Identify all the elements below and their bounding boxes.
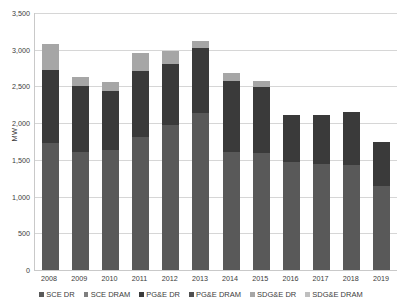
y-axis-tick-label: 0 bbox=[0, 266, 30, 275]
bar-segment[interactable] bbox=[132, 137, 149, 270]
bar-segment[interactable] bbox=[132, 71, 149, 137]
bar-group[interactable] bbox=[42, 13, 59, 270]
x-axis-tick-label: 2018 bbox=[337, 274, 365, 283]
stacked-bar-chart: MW 3,5003,0002,5002,0001,5001,0005000 20… bbox=[0, 0, 402, 307]
bar-segment[interactable] bbox=[373, 142, 390, 186]
bar-segment[interactable] bbox=[162, 64, 179, 124]
bar-group[interactable] bbox=[223, 13, 240, 270]
y-axis-tick-label: 1,000 bbox=[0, 193, 30, 202]
legend-label: SCE DRAM bbox=[91, 290, 131, 299]
bar-segment[interactable] bbox=[102, 150, 119, 270]
legend-swatch-icon bbox=[189, 292, 194, 297]
y-axis-tick-label: 2,000 bbox=[0, 119, 30, 128]
bar-segment[interactable] bbox=[223, 152, 240, 270]
y-axis-tick-label: 2,500 bbox=[0, 82, 30, 91]
chart-legend: SCE DRSCE DRAMPG&E DRPG&E DRAMSDG&E DRSD… bbox=[0, 290, 402, 299]
y-axis-tick-label: 3,000 bbox=[0, 46, 30, 55]
bar-group[interactable] bbox=[132, 13, 149, 270]
bar-segment[interactable] bbox=[343, 112, 360, 165]
legend-item[interactable]: SCE DRAM bbox=[84, 290, 131, 299]
bar-group[interactable] bbox=[373, 13, 390, 270]
legend-label: PG&E DR bbox=[146, 290, 180, 299]
bar-segment[interactable] bbox=[343, 165, 360, 270]
bar-group[interactable] bbox=[313, 13, 330, 270]
bar-segment[interactable] bbox=[313, 115, 330, 163]
legend-item[interactable]: SCE DR bbox=[39, 290, 74, 299]
legend-item[interactable]: SDG&E DRAM bbox=[305, 290, 362, 299]
bar-segment[interactable] bbox=[102, 82, 119, 91]
legend-item[interactable]: SDG&E DR bbox=[250, 290, 296, 299]
legend-label: SDG&E DR bbox=[257, 290, 296, 299]
bar-segment[interactable] bbox=[72, 86, 89, 152]
bar-segment[interactable] bbox=[162, 51, 179, 64]
bar-segment[interactable] bbox=[102, 91, 119, 150]
legend-swatch-icon bbox=[39, 292, 44, 297]
bar-segment[interactable] bbox=[283, 162, 300, 270]
bar-group[interactable] bbox=[162, 13, 179, 270]
legend-label: SDG&E DRAM bbox=[312, 290, 362, 299]
bar-segment[interactable] bbox=[192, 113, 209, 270]
bar-segment[interactable] bbox=[42, 143, 59, 270]
bar-segment[interactable] bbox=[253, 153, 270, 270]
bar-group[interactable] bbox=[192, 13, 209, 270]
x-axis-tick-label: 2009 bbox=[65, 274, 93, 283]
plot-area bbox=[34, 13, 397, 271]
bar-segment[interactable] bbox=[162, 125, 179, 270]
bar-segment[interactable] bbox=[253, 87, 270, 152]
bar-segment[interactable] bbox=[373, 186, 390, 270]
bar-segment[interactable] bbox=[192, 48, 209, 113]
x-axis-tick-label: 2016 bbox=[276, 274, 304, 283]
legend-swatch-icon bbox=[84, 292, 89, 297]
x-axis-tick-label: 2011 bbox=[126, 274, 154, 283]
bar-segment[interactable] bbox=[223, 73, 240, 80]
y-axis-tick-label: 500 bbox=[0, 229, 30, 238]
bar-group[interactable] bbox=[253, 13, 270, 270]
x-axis-tick-label: 2008 bbox=[35, 274, 63, 283]
bar-series-container bbox=[35, 13, 397, 270]
bar-segment[interactable] bbox=[72, 77, 89, 86]
legend-swatch-icon bbox=[250, 292, 255, 297]
x-axis-tick-label: 2013 bbox=[186, 274, 214, 283]
legend-item[interactable]: PG&E DRAM bbox=[189, 290, 241, 299]
legend-swatch-icon bbox=[305, 292, 310, 297]
x-axis-tick-label: 2010 bbox=[95, 274, 123, 283]
x-axis-tick-label: 2019 bbox=[367, 274, 395, 283]
legend-label: PG&E DRAM bbox=[196, 290, 241, 299]
bar-segment[interactable] bbox=[192, 41, 209, 48]
bar-segment[interactable] bbox=[253, 81, 270, 87]
bar-segment[interactable] bbox=[132, 53, 149, 71]
legend-label: SCE DR bbox=[46, 290, 74, 299]
bar-segment[interactable] bbox=[42, 70, 59, 143]
bar-group[interactable] bbox=[72, 13, 89, 270]
x-axis-tick-label: 2015 bbox=[246, 274, 274, 283]
bar-group[interactable] bbox=[102, 13, 119, 270]
bar-group[interactable] bbox=[343, 13, 360, 270]
x-axis-tick-label: 2017 bbox=[307, 274, 335, 283]
bar-segment[interactable] bbox=[283, 115, 300, 162]
bar-segment[interactable] bbox=[223, 81, 240, 152]
bar-segment[interactable] bbox=[42, 44, 59, 70]
bar-segment[interactable] bbox=[313, 164, 330, 270]
legend-item[interactable]: PG&E DR bbox=[139, 290, 180, 299]
legend-swatch-icon bbox=[139, 292, 144, 297]
bar-segment[interactable] bbox=[72, 152, 89, 270]
x-axis-tick-label: 2012 bbox=[156, 274, 184, 283]
x-axis-tick-label: 2014 bbox=[216, 274, 244, 283]
bar-group[interactable] bbox=[283, 13, 300, 270]
y-axis-tick-label: 3,500 bbox=[0, 9, 30, 18]
y-axis-tick-label: 1,500 bbox=[0, 156, 30, 165]
